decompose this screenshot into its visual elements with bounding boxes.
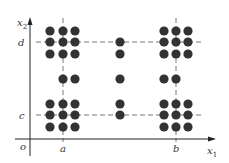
tick-label-b: b xyxy=(173,143,179,154)
tick-label-d: d xyxy=(18,37,24,48)
grid-dot xyxy=(171,110,180,119)
grid-dot xyxy=(171,49,180,58)
grid-dot xyxy=(58,122,67,131)
grid-dot xyxy=(171,26,180,35)
grid-dot xyxy=(45,110,54,119)
grid-dot xyxy=(58,110,67,119)
grid-dot xyxy=(159,37,168,46)
grid-dot xyxy=(115,49,124,58)
y-axis-arrow-icon xyxy=(28,17,33,25)
grid-dot xyxy=(171,74,180,83)
grid-dot xyxy=(70,74,79,83)
x-axis-label: x1 xyxy=(207,145,217,159)
grid-dot xyxy=(171,37,180,46)
grid-dot xyxy=(159,110,168,119)
grid-dot xyxy=(115,74,124,83)
grid-dot xyxy=(159,99,168,108)
tick-label-c: c xyxy=(19,110,25,121)
grid-dot xyxy=(70,122,79,131)
grid-dot xyxy=(45,122,54,131)
origin-label: o xyxy=(20,141,26,152)
grid-dot xyxy=(58,26,67,35)
grid-dot xyxy=(45,49,54,58)
grid-dot xyxy=(171,99,180,108)
dot-grid xyxy=(45,26,192,131)
x-axis-arrow-icon xyxy=(208,137,216,142)
grid-dot xyxy=(159,49,168,58)
grid-dot xyxy=(70,99,79,108)
grid-dot xyxy=(183,49,192,58)
grid-dot xyxy=(45,37,54,46)
grid-dot xyxy=(58,99,67,108)
grid-dot xyxy=(45,26,54,35)
grid-dot xyxy=(183,37,192,46)
grid-point-diagram: x2 d c o a b x1 xyxy=(0,0,229,163)
grid-dot xyxy=(70,26,79,35)
grid-dot xyxy=(58,37,67,46)
grid-dot xyxy=(70,110,79,119)
grid-dot xyxy=(183,110,192,119)
grid-dot xyxy=(183,26,192,35)
grid-dot xyxy=(159,74,168,83)
tick-label-a: a xyxy=(60,143,66,154)
grid-dot xyxy=(115,110,124,119)
grid-dot xyxy=(70,37,79,46)
grid-dot xyxy=(159,26,168,35)
grid-dot xyxy=(159,122,168,131)
grid-dot xyxy=(70,49,79,58)
diagram-canvas: x2 d c o a b x1 xyxy=(0,0,229,163)
grid-dot xyxy=(183,99,192,108)
y-axis-label: x2 xyxy=(17,17,27,31)
grid-dot xyxy=(171,122,180,131)
grid-dot xyxy=(58,49,67,58)
grid-dot xyxy=(183,122,192,131)
grid-dot xyxy=(58,74,67,83)
grid-dot xyxy=(115,37,124,46)
grid-dot xyxy=(115,99,124,108)
grid-dot xyxy=(45,99,54,108)
